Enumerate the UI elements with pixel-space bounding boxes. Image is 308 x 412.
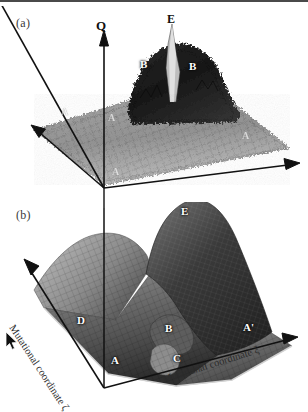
panel-label-a: (a) bbox=[16, 16, 30, 31]
panel-b-surface bbox=[24, 200, 298, 388]
panel-a-surface bbox=[0, 2, 300, 190]
mouse-pointer-icon bbox=[6, 332, 19, 351]
figure-canvas bbox=[0, 2, 308, 412]
figure-container: (a) (b) Q E B B A A A A E D A B C A' Mut… bbox=[0, 0, 308, 412]
panel-label-b: (b) bbox=[16, 208, 31, 223]
